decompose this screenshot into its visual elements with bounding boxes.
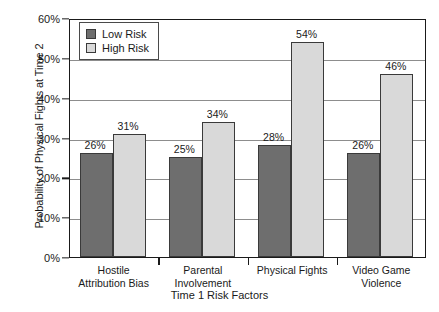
bar-low-risk <box>258 145 291 257</box>
chart-legend: Low Risk High Risk <box>79 22 159 60</box>
y-tick-mark <box>62 138 69 139</box>
bar-high-risk <box>380 74 413 257</box>
y-tick-mark <box>62 178 69 179</box>
y-tick-label: 50% <box>0 53 60 65</box>
bar-value-label: 54% <box>296 28 317 40</box>
y-tick-label: 0% <box>0 252 60 264</box>
bar-chart: Probability of Physical Fights at Time 2… <box>0 0 439 312</box>
y-tick-label: 60% <box>0 13 60 25</box>
gridline <box>70 100 425 101</box>
x-axis-title: Time 1 Risk Factors <box>0 289 439 301</box>
bar-value-label: 26% <box>352 139 373 151</box>
y-tick-label: 10% <box>0 212 60 224</box>
category-label-line: Violence <box>326 277 436 290</box>
y-tick-mark <box>62 218 69 219</box>
legend-item-high-risk: High Risk <box>86 41 149 55</box>
bar-high-risk <box>291 42 324 257</box>
y-tick-mark <box>62 98 69 99</box>
category-label-line: Involvement <box>148 277 258 290</box>
bar-high-risk <box>113 134 146 257</box>
legend-label-low-risk: Low Risk <box>102 28 147 40</box>
y-tick-mark <box>62 18 69 19</box>
bar-low-risk <box>169 157 202 257</box>
bar-value-label: 34% <box>207 108 228 120</box>
y-tick-mark <box>62 58 69 59</box>
category-label-line: Video Game <box>326 264 436 277</box>
category-label: Video GameViolence <box>326 264 436 289</box>
bar-low-risk <box>80 153 113 257</box>
y-tick-label: 40% <box>0 93 60 105</box>
bar-high-risk <box>202 122 235 257</box>
legend-item-low-risk: Low Risk <box>86 27 149 41</box>
bar-value-label: 28% <box>263 131 284 143</box>
legend-swatch-low-risk <box>86 29 96 39</box>
legend-swatch-high-risk <box>86 43 96 53</box>
y-tick-label: 20% <box>0 172 60 184</box>
bar-low-risk <box>347 153 380 257</box>
legend-label-high-risk: High Risk <box>102 42 149 54</box>
bar-value-label: 26% <box>85 139 106 151</box>
y-tick-label: 30% <box>0 133 60 145</box>
bar-value-label: 31% <box>118 120 139 132</box>
bar-value-label: 25% <box>174 143 195 155</box>
y-tick-mark <box>62 257 69 258</box>
bar-value-label: 46% <box>385 60 406 72</box>
